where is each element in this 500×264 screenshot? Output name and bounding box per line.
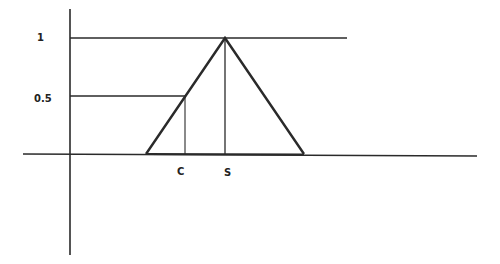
x-label-s: S [224, 167, 231, 178]
membership-function-diagram: 1 0.5 C S [0, 0, 500, 264]
x-label-c: C [177, 166, 184, 177]
y-label-one: 1 [37, 32, 44, 43]
y-label-half: 0.5 [34, 93, 52, 104]
triangle-base [146, 154, 304, 155]
